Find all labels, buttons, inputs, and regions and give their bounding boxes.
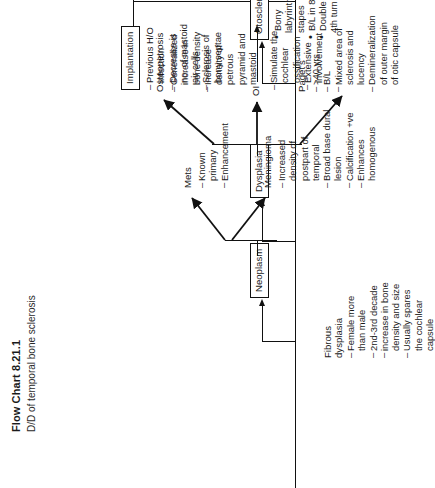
detail-item: homogenous [366, 110, 377, 188]
detail-text: Known [196, 152, 207, 181]
detail-marker: – [321, 87, 332, 92]
detail-text: air cells [189, 51, 200, 83]
arrowhead-oi [254, 25, 260, 32]
connector-neoplasm [262, 304, 263, 342]
detail-text: of outer margin [378, 22, 389, 85]
detail-text: Usually spares [401, 290, 412, 351]
branch-label-pagets: Paget's [296, 60, 307, 92]
branch-stub-neoplasm [262, 341, 296, 342]
detail-item: infection [155, 24, 166, 90]
detail-text: >40 yrs [310, 54, 321, 85]
detail-text: cochlear [279, 48, 290, 83]
detail-item: capsule [424, 282, 435, 358]
detail-item: than male [356, 282, 367, 358]
detail-marker: – [355, 183, 366, 188]
detail-text: Previous H/O [144, 27, 155, 83]
detail-item: bony septae [212, 24, 223, 90]
detail-text: B/L in 80% [306, 0, 317, 31]
detail-text: than male [356, 310, 367, 351]
detail-text: Female more [345, 296, 356, 351]
detail-item: •Double ring or [317, 0, 328, 40]
detail-marker: • [271, 35, 282, 39]
branch-label-mets: Mets [182, 167, 193, 188]
detail-marker: – [268, 85, 279, 90]
detail-text: homogenous [366, 127, 377, 181]
oi-connector [257, 30, 258, 82]
detail-item: –increase in bone [379, 282, 390, 358]
detail-marker: – [401, 353, 412, 358]
detail-item: –Sclerosis of [200, 24, 211, 90]
detail-item: density and size [390, 282, 401, 358]
node-implantation[interactable]: Implantation [121, 26, 140, 90]
page-subtitle: D/D of temporal bone sclerosis [26, 295, 37, 432]
detail-text: density and size [390, 284, 401, 351]
detail-item: the cochlear [413, 282, 424, 358]
detail-item: •B/L in 80% [306, 0, 317, 40]
detail-text: Sclerosis of [200, 35, 211, 83]
detail-text: increase in bone [379, 282, 390, 351]
detail-item: 4th turn sign [328, 0, 339, 40]
detail-text: primary [207, 150, 218, 181]
detail-item: of otic capsule [389, 15, 400, 92]
detail-item: labyrinth and [283, 0, 294, 40]
detail-text: pyramid and [236, 33, 247, 85]
branch-label-fibrous-dysplasia-line2: dysplasia [333, 318, 344, 358]
detail-text: labyrinth and [283, 0, 294, 33]
detail-text: petrous [224, 54, 235, 85]
detail-text: Decrease is [167, 34, 178, 84]
detail-marker: – [218, 183, 229, 188]
detail-marker: – [276, 183, 287, 188]
neoplasm-branch-arrows [170, 178, 290, 248]
detail-marker: – [166, 85, 177, 90]
detail-marker: – [343, 183, 354, 188]
detail-item: –Usually spares [401, 282, 412, 358]
detail-text: stapes [295, 5, 306, 33]
detail-item: –Demineralization [366, 15, 377, 92]
detail-text: Demineralization [366, 15, 377, 85]
detail-text: B/L [321, 71, 332, 85]
detail-text: no. of mastoid [178, 24, 189, 83]
detail-text: 4th turn sign [328, 0, 339, 33]
detail-item: –Enhances [355, 110, 366, 188]
detail-marker: – [366, 87, 377, 92]
detail-marker: • [316, 35, 327, 39]
detail-marker: – [378, 353, 389, 358]
branch-items-implantation: –Previous H/Oinfection–Decrease isno. of… [144, 24, 223, 90]
branch-label-fibrous-dysplasia-line1: Fibrous [322, 326, 333, 358]
detail-text: Enhances [355, 139, 366, 181]
detail-item: –Female more [345, 282, 356, 358]
detail-text: lucency [355, 53, 366, 85]
detail-marker: – [367, 353, 378, 358]
detail-text: Double ring or [317, 0, 328, 31]
detail-text: sclerosis and [344, 30, 355, 85]
detail-item: air cells [189, 24, 200, 90]
detail-item: sclerosis and [344, 15, 355, 92]
detail-item: lucency [355, 15, 366, 92]
detail-item: •Bony [272, 0, 283, 40]
detail-text: capsule [424, 319, 435, 351]
detail-item: pyramid and [236, 32, 247, 92]
detail-marker: – [310, 87, 321, 92]
detail-text: the cochlear [413, 300, 424, 351]
detail-item: petrous [224, 32, 235, 92]
detail-text: 2nd-3rd decade [368, 285, 379, 351]
detail-item: no. of mastoid [178, 24, 189, 90]
branch-items-otosclerosis: •Bonylabyrinth andstapes•B/L in 80%•Doub… [272, 0, 340, 40]
page-title: Flow Chart 8.21.1 [10, 340, 22, 432]
detail-marker: – [332, 87, 343, 92]
detail-item: –Decrease is [167, 24, 178, 90]
branch-label-oi: OI [250, 86, 261, 96]
detail-item: –2nd-3rd decade [368, 282, 379, 358]
detail-item: of outer margin [378, 15, 389, 92]
detail-text: Bony [272, 10, 283, 31]
detail-text: bony septae [212, 32, 223, 83]
detail-marker: – [345, 353, 356, 358]
node-neoplasm[interactable]: Neoplasm [250, 243, 269, 298]
detail-marker: – [200, 85, 211, 90]
branch-items-fibrous-dysplasia: –Female morethan male–2nd-3rd decade–inc… [345, 282, 435, 358]
detail-marker: – [321, 183, 332, 188]
detail-text: of otic capsule [389, 25, 400, 85]
detail-text: lesion [332, 157, 343, 182]
